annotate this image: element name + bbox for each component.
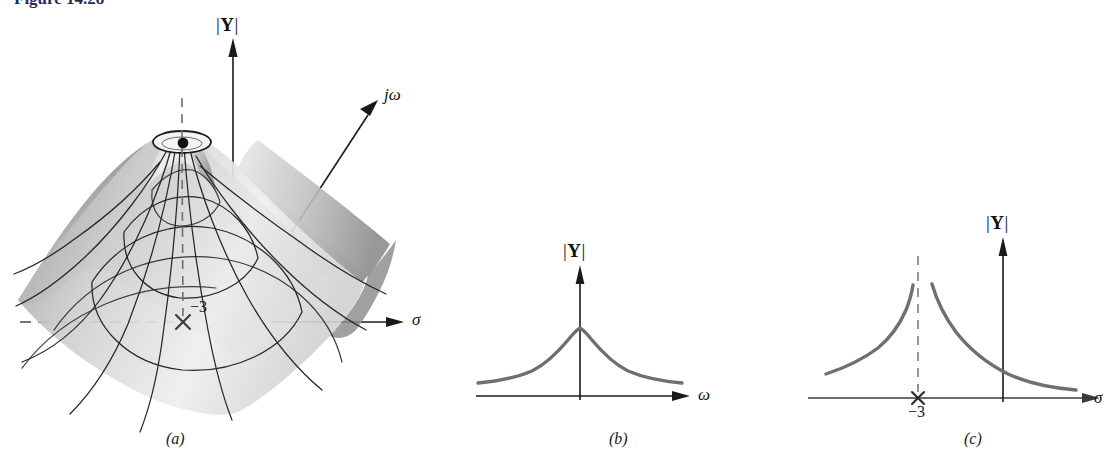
panel-c-magnitude-axis-label: |Y| — [986, 212, 1009, 234]
bar-right: | — [1005, 212, 1009, 233]
panel-b-omega-axis — [476, 391, 690, 401]
panel-b-omega-axis-label: ω — [698, 385, 710, 405]
panel-a-svg — [0, 0, 460, 440]
bar-right: | — [235, 14, 239, 35]
panel-a-caption: (a) — [166, 430, 185, 448]
y-symbol: Y — [567, 240, 581, 261]
panel-c-magnitude-axis — [999, 237, 1008, 402]
panel-c-sigma-cross-section: |Y| −3 σ (c) — [800, 0, 1111, 469]
y-symbol: Y — [220, 14, 234, 35]
panel-b-svg — [470, 0, 800, 440]
panel-c-caption: (c) — [964, 430, 982, 448]
panel-a-sigma-axis-label: σ — [412, 310, 420, 330]
panel-c-sigma-axis-label: σ — [1094, 388, 1102, 408]
panel-c-sigma-axis — [808, 393, 1100, 403]
bar-right: | — [582, 240, 586, 261]
panel-c-left-branch-curve — [826, 285, 913, 374]
panel-a-pole-label: −3 — [190, 298, 207, 316]
y-symbol: Y — [990, 212, 1004, 233]
panel-b-magnitude-axis-label: |Y| — [563, 240, 586, 262]
panel-b-omega-cross-section: |Y| ω (b) — [470, 0, 800, 469]
panel-a-surface-plot: |Y| jω σ −3 (a) — [0, 0, 460, 469]
panel-c-svg — [800, 0, 1111, 440]
panel-a-magnitude-surface — [14, 130, 396, 432]
panel-a-jomega-axis-label: jω — [384, 85, 401, 105]
figure-root: Figure 14.28 — [0, 0, 1111, 469]
panel-c-pole-label: −3 — [908, 403, 925, 421]
panel-c-right-branch-curve — [932, 284, 1076, 390]
panel-b-caption: (b) — [609, 430, 628, 448]
panel-a-magnitude-axis-label: |Y| — [216, 14, 239, 36]
